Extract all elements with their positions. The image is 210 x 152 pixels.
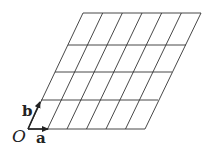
vector-a-label: a [36, 131, 46, 146]
vector-b-label: b [22, 104, 33, 119]
origin-label: O [12, 128, 26, 145]
grid-lines [28, 13, 201, 129]
lattice-diagram [0, 0, 210, 152]
